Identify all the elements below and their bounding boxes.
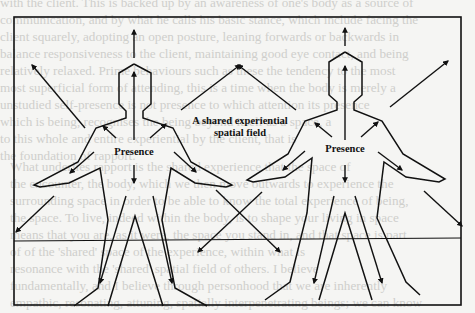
arrow-downright-hand (424, 191, 462, 226)
arrow-upright-chest (150, 124, 166, 138)
arrow-upleft-shoulder (32, 65, 85, 128)
arrow-downright-arm (174, 152, 196, 172)
left-presence-label: Presence (114, 146, 154, 157)
arrow-downleft-hand (16, 196, 54, 232)
arrow-upleft-cross (238, 65, 296, 110)
ground-line (14, 238, 461, 241)
arrow-upright-shoulder (390, 61, 448, 107)
arrow-downright-arm (378, 152, 402, 170)
shared-spatial-field-diagram: Presence Presence A shared experiential … (0, 0, 475, 313)
right-person-outline (247, 52, 445, 300)
figure-frame (14, 17, 461, 305)
arrow-upright-chest (361, 122, 378, 137)
scanned-book-page: with the client. This is backed up by an… (0, 0, 475, 313)
arrow-upright-cross (181, 65, 240, 110)
arrow-downright-cross (216, 190, 280, 252)
arrow-downleft-arm (283, 151, 305, 170)
right-presence-label: Presence (325, 143, 365, 154)
left-person-outline (34, 64, 232, 306)
arrow-upleft-chest (315, 123, 332, 137)
arrow-downleft-cross (198, 192, 262, 252)
arrow-upleft-chest (103, 126, 116, 138)
shared-field-label-line1: A shared experiential (192, 115, 288, 126)
arrow-down-leftleg (100, 196, 126, 283)
shared-field-label-line2: spatial field (214, 127, 266, 138)
